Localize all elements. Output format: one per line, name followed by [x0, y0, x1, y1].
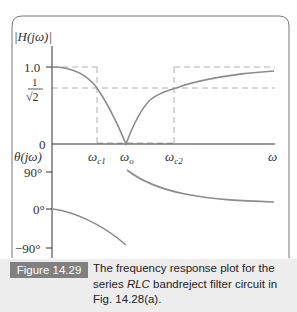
ytick-one: 1.0 — [24, 60, 40, 75]
ytick-sqrt-num: 1 — [32, 76, 38, 88]
phase-curve-high — [127, 170, 274, 202]
xtick-wo: ωo — [120, 149, 134, 166]
ptick-90: 90° — [24, 165, 42, 180]
magnitude-axis-label: |H(jω)| — [14, 29, 52, 44]
x-axis-label: ω — [268, 149, 277, 164]
magnitude-curve — [52, 67, 274, 144]
xtick-wc2: ωc2 — [165, 149, 183, 166]
axes — [46, 46, 275, 258]
phase-curve-low — [53, 209, 126, 245]
figure-number-label: Figure 14.29 — [10, 262, 88, 278]
figure-frame — [12, 16, 289, 258]
ptick-m90: −90° — [15, 241, 41, 256]
phase-axis-label: θ(jω) — [14, 149, 42, 164]
ytick-sqrt-den: √2 — [26, 90, 39, 104]
ptick-0: 0° — [33, 202, 45, 217]
ideal-response-dashed — [52, 67, 275, 144]
caption-italic: RLC — [127, 278, 150, 290]
xtick-wc1: ωc1 — [88, 149, 106, 166]
figure-caption: The frequency response plot for the seri… — [93, 261, 293, 308]
